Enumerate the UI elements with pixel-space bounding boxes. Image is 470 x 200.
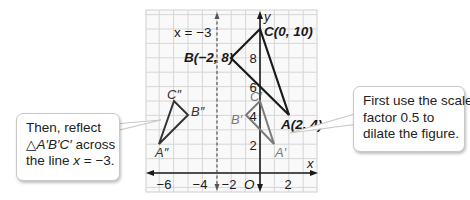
x-tick-label: −2	[222, 177, 237, 192]
point-c-double-prime-label: C″	[167, 87, 181, 102]
reflect-callout-text: = −3.	[80, 153, 115, 168]
triangle-name: A′B′C′	[36, 137, 71, 152]
reflect-callout-line-3: the line x = −3.	[26, 153, 110, 170]
point-b-double-prime-label: B″	[191, 104, 205, 119]
reflect-callout-text: across	[72, 137, 116, 152]
x-tick-label: 2	[284, 177, 291, 192]
y-tick-label: 4	[249, 109, 256, 124]
x-tick-label: −6	[157, 177, 172, 192]
point-a-prime-label: A′	[274, 145, 287, 160]
x-axis-label: x	[306, 156, 314, 171]
point-b-label: B(−2, 8)	[184, 50, 234, 65]
reflect-callout-line-2: △A′B′C′ across	[26, 137, 110, 154]
reflect-callout-line-1: Then, reflect	[26, 120, 110, 137]
y-tick-label: 2	[249, 138, 256, 153]
coordinate-diagram: x y O −6 −4 −2 2 2 4 6 8 x = −3 C(0, 10)…	[0, 0, 470, 200]
dilate-callout: First use the scale factor 0.5 to dilate…	[353, 86, 465, 152]
triangle-symbol-icon: △	[26, 137, 36, 152]
point-a-double-prime-label: A″	[154, 145, 169, 160]
reflect-callout-text: the line	[26, 153, 73, 168]
x-tick-label: −4	[193, 177, 208, 192]
dilate-callout-line-1: First use the scale	[363, 93, 455, 110]
reflection-line-label: x = −3	[174, 25, 212, 40]
point-c-label: C(0, 10)	[264, 24, 313, 39]
point-c-prime-label: C′	[250, 89, 262, 104]
origin-label: O	[244, 177, 255, 192]
reflect-callout: Then, reflect △A′B′C′ across the line x …	[16, 113, 120, 181]
y-tick-label: 8	[249, 51, 256, 66]
dilate-callout-line-2: factor 0.5 to	[363, 110, 455, 127]
point-b-prime-label: B′	[231, 112, 243, 127]
dilate-callout-line-3: dilate the figure.	[363, 126, 455, 143]
